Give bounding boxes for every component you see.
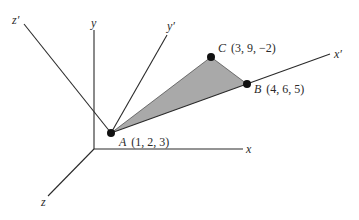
z-axis [48, 149, 94, 196]
label-z-prime: z′ [11, 13, 20, 27]
label-point-b: B (4, 6, 5) [254, 82, 304, 96]
label-y: y [90, 16, 97, 30]
coordinate-diagram: y x z z′ y′ x′ A (1, 2, 3) B (4, 6, 5) C… [0, 0, 359, 220]
label-y-prime: y′ [166, 19, 175, 33]
label-point-a: A (1, 2, 3) [118, 135, 169, 149]
point-a [107, 129, 115, 137]
label-point-c: C (3, 9, −2) [218, 41, 276, 55]
label-x: x [245, 142, 252, 156]
point-c [207, 53, 215, 61]
point-b [243, 80, 251, 88]
label-x-prime: x′ [333, 47, 342, 61]
label-z: z [40, 195, 46, 209]
z-prime-axis [24, 24, 111, 133]
